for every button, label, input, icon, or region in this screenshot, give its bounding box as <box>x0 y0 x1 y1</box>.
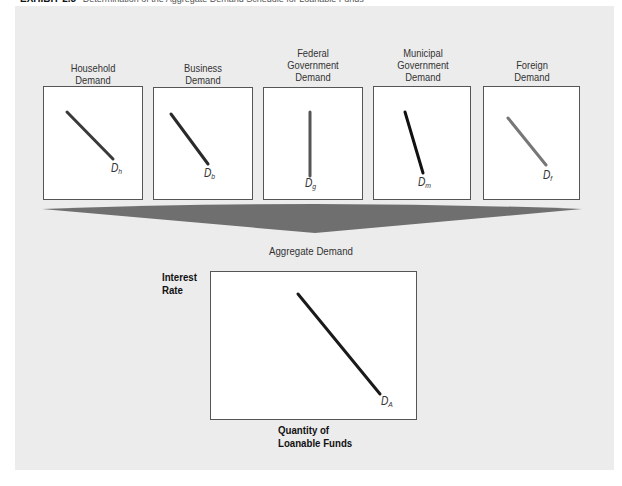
curve-letter: D <box>418 175 425 189</box>
db-label: Db <box>204 166 215 181</box>
y-axis-line: Rate <box>162 284 197 297</box>
foreign-demand-curve <box>508 118 546 165</box>
y-axis-label: Interest Rate <box>162 271 197 297</box>
curve-letter: D <box>381 394 388 408</box>
curve-letter: D <box>543 168 550 182</box>
municipal-demand-curve <box>405 112 423 173</box>
aggregate-demand-label: Aggregate Demand <box>37 245 584 257</box>
business-demand-curve <box>171 114 208 164</box>
curve-subscript: f <box>550 174 552 183</box>
curve-subscript: b <box>211 172 215 181</box>
curve-subscript: h <box>118 167 122 176</box>
household-demand-curve <box>67 112 113 159</box>
df-label: Df <box>543 168 552 183</box>
curve-subscript: A <box>388 400 393 409</box>
curve-letter: D <box>111 161 118 175</box>
aggregate-demand-curve <box>298 294 380 394</box>
x-axis-line: Quantity of <box>278 424 352 437</box>
curve-subscript: g <box>312 182 316 191</box>
curve-subscript: m <box>425 181 431 190</box>
da-label: DA <box>381 394 393 409</box>
x-axis-label: Quantity of Loanable Funds <box>278 424 352 450</box>
dm-label: Dm <box>418 175 431 190</box>
diagram-lines <box>0 0 622 486</box>
funnel-arrow-icon <box>42 204 582 233</box>
x-axis-line: Loanable Funds <box>278 437 352 450</box>
curve-letter: D <box>204 166 211 180</box>
curve-letter: D <box>305 176 312 190</box>
dg-label: Dg <box>305 176 316 191</box>
y-axis-line: Interest <box>162 271 197 284</box>
dh-label: Dh <box>111 161 122 176</box>
